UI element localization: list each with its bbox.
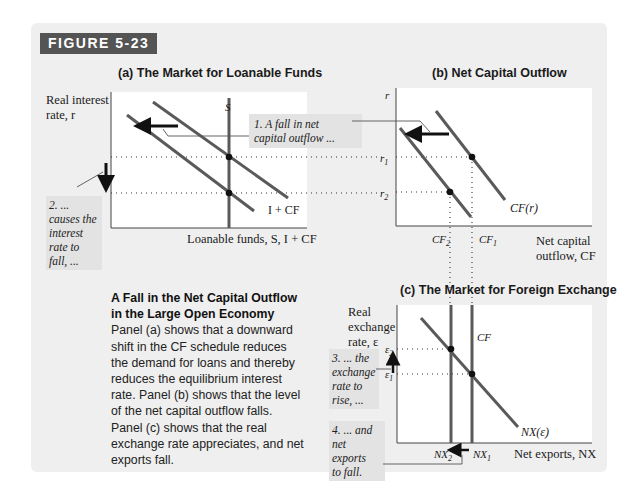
r1-label: r1 (380, 151, 388, 170)
figure-caption: A Fall in the Net Capital Outflow in the… (111, 290, 306, 468)
panel-b-ylabel: r (385, 88, 389, 103)
cf2-label: CF2 (432, 232, 450, 251)
cf-curve-label: CF(r) (510, 201, 538, 216)
r2-label: r2 (380, 186, 388, 205)
panel-a-title: (a) The Market for Loanable Funds (118, 66, 322, 80)
xlabel-line: Net capital (536, 234, 596, 249)
panel-c-xlabel: Net exports, NX (514, 447, 596, 462)
e2-label: ε2 (385, 342, 393, 361)
panel-b-xlabel: Net capital outflow, CF (536, 234, 596, 264)
panel-c-title: (c) The Market for Foreign Exchange (400, 283, 617, 297)
demand-label: I + CF (268, 203, 299, 218)
nx-curve-label: NX(ε) (521, 425, 549, 440)
cf1-label: CF1 (479, 232, 497, 251)
ylabel-line: Real interest (46, 93, 109, 108)
supply-label: S (225, 100, 231, 115)
caption-body: Panel (a) shows that a downward shift in… (111, 323, 304, 467)
nx1-label: NX1 (473, 447, 491, 466)
ylabel-line: rate, r (46, 108, 109, 123)
xlabel-line: outflow, CF (536, 249, 596, 264)
cf-supply-label: CF (477, 330, 491, 345)
caption-title: A Fall in the Net Capital Outflow in the… (111, 291, 297, 321)
ylabel-line: exchange (348, 320, 395, 335)
ylabel-line: Real (348, 305, 395, 320)
e1-label: ε1 (385, 367, 393, 386)
panel-a-xlabel: Loanable funds, S, I + CF (187, 232, 317, 247)
panel-b-title: (b) Net Capital Outflow (432, 66, 567, 80)
panel-a-ylabel: Real interest rate, r (46, 93, 109, 123)
nx2-label: NX2 (434, 447, 452, 466)
